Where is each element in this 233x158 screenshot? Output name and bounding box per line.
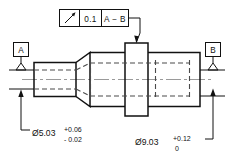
datum-a-label: A — [18, 46, 24, 55]
datum-feature-a[interactable]: A — [9, 43, 34, 71]
right-dim-arrowhead — [210, 89, 215, 97]
hidden-line-taper-top — [76, 63, 90, 70]
fcf-tolerance-value: 0.1 — [84, 15, 97, 24]
right-dim-value: Ø9.03 — [135, 137, 159, 147]
right-dim-lower-tolerance: 0 — [175, 145, 179, 152]
datum-b-label: B — [210, 46, 216, 55]
right-dim-leader-line — [205, 95, 213, 139]
datum-a-triangle — [16, 63, 26, 70]
left-dim-upper-tolerance: +0.06 — [64, 126, 82, 133]
hidden-line-taper-bottom — [76, 89, 90, 96]
engineering-drawing-canvas: 0.1 A − B A B Ø5.03 +0.06 — [0, 0, 233, 158]
left-dim-arrowhead — [18, 90, 23, 98]
feature-control-frame[interactable]: 0.1 A − B — [60, 10, 129, 27]
left-dim-value: Ø5.03 — [32, 128, 56, 138]
drawing-svg: 0.1 A − B A B Ø5.03 +0.06 — [0, 0, 233, 158]
datum-b-triangle — [208, 63, 218, 70]
fcf-leader-line — [129, 18, 141, 42]
right-dim-upper-tolerance: +0.12 — [173, 135, 191, 142]
left-dim-leader-line — [21, 96, 30, 130]
left-dim-lower-tolerance: - 0.02 — [64, 136, 82, 143]
datum-feature-b[interactable]: B — [200, 43, 225, 71]
fcf-datum-reference: A − B — [104, 15, 126, 24]
